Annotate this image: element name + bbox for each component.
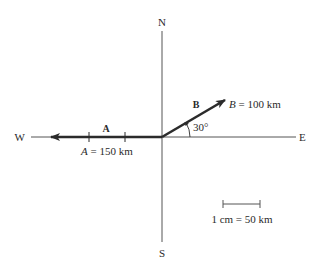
east-label: E (299, 131, 306, 143)
scale-legend: 1 cm = 50 km (211, 200, 273, 225)
vector-b: B B = 100 km 30° (162, 98, 281, 137)
vector-b-name: B (193, 99, 200, 110)
vector-diagram: N S W E A A = 150 km B B = 100 km 30° 1 … (0, 0, 323, 270)
vector-a: A A = 150 km (51, 123, 162, 157)
angle-label: 30° (193, 121, 208, 133)
scale-label: 1 cm = 50 km (211, 213, 273, 225)
south-label: S (159, 247, 165, 259)
vector-b-magnitude: B = 100 km (229, 98, 281, 110)
west-label: W (15, 131, 26, 143)
north-label: N (158, 16, 166, 28)
vector-a-name: A (102, 123, 110, 134)
vector-a-magnitude: A = 150 km (80, 145, 133, 157)
